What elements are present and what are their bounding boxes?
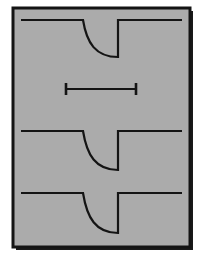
drawing-canvas: [0, 0, 208, 264]
drawing-frame: [13, 8, 190, 247]
technical-drawing-figure: [0, 0, 208, 264]
